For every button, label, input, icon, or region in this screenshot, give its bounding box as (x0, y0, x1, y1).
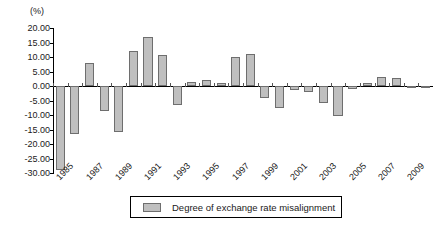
y-axis-tick-mark (50, 115, 54, 116)
bar (260, 86, 269, 98)
y-axis-tick-label: -10.00 (24, 110, 50, 120)
x-axis-tick-mark (316, 83, 317, 87)
y-axis-tick-mark (50, 144, 54, 145)
x-axis-tick-mark (345, 83, 346, 87)
x-axis-tick-mark (97, 83, 98, 87)
y-axis-tick-mark (50, 57, 54, 58)
chart-legend: Degree of exchange rate misalignment (130, 196, 342, 218)
x-axis-tick-mark (389, 83, 390, 87)
y-axis-labels: 20.0015.0010.005.000.00-5.00-10.00-15.00… (0, 0, 50, 235)
bar (348, 86, 357, 89)
bar (114, 86, 123, 132)
bar (187, 82, 196, 86)
bar (246, 54, 255, 86)
bar (85, 63, 94, 86)
bar (56, 86, 65, 170)
y-axis-tick-label: 10.00 (27, 52, 50, 62)
y-axis-tick-label: -20.00 (24, 139, 50, 149)
bar (421, 86, 430, 88)
x-axis-tick-mark (68, 83, 69, 87)
x-axis-tick-mark (53, 83, 54, 87)
x-axis-tick-mark (82, 83, 83, 87)
bar (407, 86, 416, 88)
bar (217, 83, 226, 86)
bar (363, 83, 372, 86)
bar (319, 86, 328, 103)
y-axis-tick-mark (50, 130, 54, 131)
x-axis-tick-mark (170, 83, 171, 87)
y-axis-tick-label: -25.00 (24, 154, 50, 164)
y-axis-tick-mark (50, 101, 54, 102)
x-axis-tick-mark (111, 83, 112, 87)
x-axis-tick-mark (418, 83, 419, 87)
bar (231, 57, 240, 86)
bar (392, 78, 401, 86)
bar (377, 77, 386, 86)
x-axis-tick-mark (258, 83, 259, 87)
x-axis-tick-mark (185, 83, 186, 87)
y-axis-tick-mark (50, 43, 54, 44)
x-axis-tick-mark (287, 83, 288, 87)
bar (304, 86, 313, 92)
x-axis-tick-mark (155, 83, 156, 87)
x-axis-tick-mark (331, 83, 332, 87)
bar (100, 86, 109, 111)
bar (173, 86, 182, 105)
x-axis-tick-mark (214, 83, 215, 87)
x-axis-tick-mark (126, 83, 127, 87)
legend-label: Degree of exchange rate misalignment (172, 202, 335, 213)
plot-area (53, 28, 433, 173)
y-axis-tick-mark (50, 72, 54, 73)
y-axis-tick-mark (50, 28, 54, 29)
y-axis-tick-label: -5.00 (29, 96, 50, 106)
bar (129, 51, 138, 86)
bar (158, 55, 167, 86)
y-axis-tick-label: 20.00 (27, 23, 50, 33)
x-axis-tick-mark (375, 83, 376, 87)
y-axis-tick-label: 0.00 (32, 81, 50, 91)
bar (70, 86, 79, 134)
y-axis-tick-label: 15.00 (27, 38, 50, 48)
y-axis-tick-label: 5.00 (32, 67, 50, 77)
bar (202, 80, 211, 86)
bar-chart: (%) 20.0015.0010.005.000.00-5.00-10.00-1… (0, 0, 441, 235)
x-axis-tick-mark (272, 83, 273, 87)
x-axis-tick-mark (228, 83, 229, 87)
bar (290, 86, 299, 90)
x-axis-tick-mark (404, 83, 405, 87)
x-axis-tick-mark (301, 83, 302, 87)
y-axis-tick-mark (50, 159, 54, 160)
y-axis-tick-label: -15.00 (24, 125, 50, 135)
x-axis-tick-mark (141, 83, 142, 87)
x-axis-tick-mark (199, 83, 200, 87)
bar (143, 37, 152, 86)
x-axis-tick-mark (360, 83, 361, 87)
bar (333, 86, 342, 116)
bar (275, 86, 284, 108)
x-axis-tick-mark (243, 83, 244, 87)
legend-swatch-icon (143, 203, 161, 212)
y-axis-tick-label: -30.00 (24, 168, 50, 178)
